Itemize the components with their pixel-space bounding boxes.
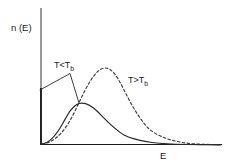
annotation-low-temperature: T<Tb [54, 60, 74, 72]
annotation-high-temperature: T>Tb [128, 75, 148, 87]
curve-low-temperature [42, 103, 221, 145]
y-axis-label: n (E) [11, 22, 32, 33]
leader-line-low-temperature [40, 74, 79, 104]
chart-canvas: n (E) E T<Tb T>Tb [0, 0, 225, 162]
annotation-high-temperature-subscript: b [144, 80, 148, 87]
svg-text:T<Tb: T<Tb [54, 60, 74, 72]
chart-figure: n (E) E T<Tb T>Tb [0, 0, 225, 162]
annotation-low-temperature-subscript: b [70, 65, 74, 72]
annotation-high-temperature-base: T>T [128, 75, 145, 85]
x-axis-label: E [160, 150, 166, 161]
annotation-low-temperature-base: T<T [54, 60, 71, 70]
svg-text:T>Tb: T>Tb [128, 75, 148, 87]
